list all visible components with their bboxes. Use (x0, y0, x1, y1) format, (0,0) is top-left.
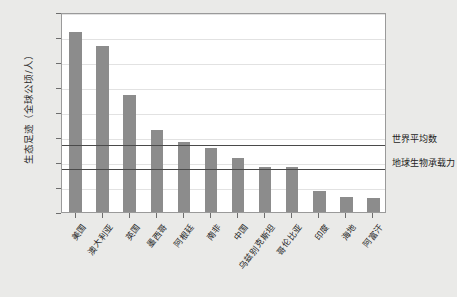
x-tick-mark (102, 213, 103, 218)
bar (205, 148, 217, 212)
bar (232, 158, 244, 212)
bar (367, 198, 379, 212)
reference-line (62, 169, 385, 170)
bar (123, 95, 135, 213)
x-tick-label: 阿根廷 (170, 221, 196, 250)
x-tick-mark (345, 213, 346, 218)
bar (340, 197, 352, 212)
bar (151, 130, 163, 213)
gridline (62, 114, 385, 115)
x-tick-mark (318, 213, 319, 218)
gridline (62, 189, 385, 190)
x-tick-label: 美国 (67, 221, 88, 243)
x-tick-mark (237, 213, 238, 218)
x-tick-label: 英国 (122, 221, 143, 243)
gridline (62, 164, 385, 165)
x-tick-label: 阿富汗 (360, 221, 386, 250)
x-tick-label: 澳大利亚 (83, 221, 115, 257)
bar (178, 142, 190, 212)
bar (313, 191, 325, 212)
x-tick-mark (156, 213, 157, 218)
x-tick-mark (210, 213, 211, 218)
gridline (62, 139, 385, 140)
x-tick-label: 中国 (230, 221, 251, 243)
gridline (62, 89, 385, 90)
bar (96, 46, 108, 212)
y-axis-title: 生态足迹（全球公顷/人） (21, 7, 35, 207)
x-tick-mark (183, 213, 184, 218)
reference-line-label: 世界平均数 (392, 133, 457, 145)
reference-line (62, 145, 385, 146)
plot-area (61, 13, 386, 213)
x-tick-label: 南非 (203, 221, 224, 243)
x-tick-mark (129, 213, 130, 218)
x-tick-label: 哥伦比亚 (273, 221, 305, 257)
bar (286, 167, 298, 212)
x-tick-label: 墨西哥 (143, 221, 169, 250)
x-tick-mark (291, 213, 292, 218)
x-tick-label: 海地 (338, 221, 359, 243)
bar (259, 167, 271, 212)
gridline (62, 64, 385, 65)
bar (69, 32, 81, 212)
x-tick-mark (372, 213, 373, 218)
reference-line-label: 地球生物承载力 (392, 157, 457, 169)
x-tick-label: 印度 (311, 221, 332, 243)
gridline (62, 39, 385, 40)
x-tick-mark (75, 213, 76, 218)
x-tick-mark (264, 213, 265, 218)
gridline (62, 14, 385, 15)
y-tick-mark (56, 213, 61, 214)
ecological-footprint-chart: 生态足迹（全球公顷/人） 012345678 美国澳大利亚英国墨西哥阿根廷南非中… (0, 0, 457, 297)
